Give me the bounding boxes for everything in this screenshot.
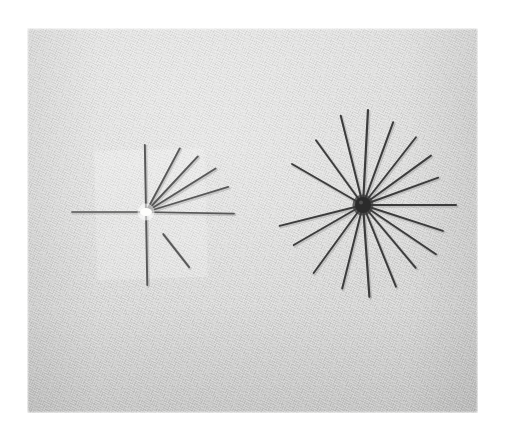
panel-edge-top [27,28,478,30]
right-cluster-hub-bead [355,197,371,213]
pin-arrangements-layer [27,28,478,413]
panel-edge-bottom [27,411,478,413]
photo-frame: Two radial arrangements of straight pins… [0,0,505,439]
panel-edge-right [476,28,478,413]
left-cluster-pin-down [146,212,147,285]
right-cluster [280,110,457,298]
left-cluster-hub-bead [140,208,152,216]
left-cluster-pin-up [145,145,146,212]
right-cluster-pin-s17 [292,164,363,205]
left-cluster [72,145,235,286]
fabric-panel [27,28,478,413]
image-caption: Two radial arrangements of straight pins… [0,16,1,17]
right-cluster-hub-specular [359,201,363,205]
right-cluster-pin-s15 [294,205,363,245]
panel-edge-left [27,28,29,413]
left-cluster-pin-down-right-detached [163,234,189,267]
